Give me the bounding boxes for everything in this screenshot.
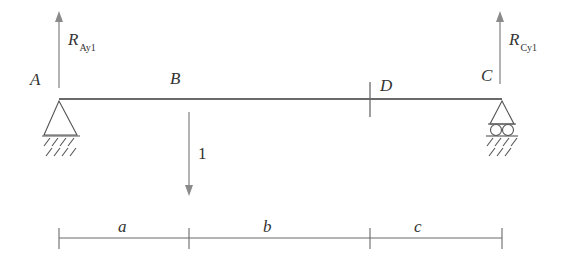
beam-diagram: RAy1 RCy1 A B D C 1 (0, 0, 570, 263)
pin-support-a (42, 101, 80, 156)
point-label-a: A (29, 70, 41, 89)
point-label-c: C (481, 66, 493, 85)
point-label-d: D (379, 76, 393, 95)
roller-support-c (486, 101, 518, 156)
reaction-label-c: RCy1 (508, 30, 537, 53)
reaction-arrow-c (496, 11, 504, 84)
dimension-label-b: b (263, 217, 272, 236)
dimension-label-a: a (118, 217, 127, 236)
reaction-arrow-a (55, 11, 63, 88)
unit-load-arrow (185, 112, 193, 196)
dimension-label-c: c (414, 217, 422, 236)
unit-load-label: 1 (198, 144, 207, 163)
reaction-label-a: RAy1 (67, 30, 96, 53)
point-label-b: B (170, 69, 181, 88)
